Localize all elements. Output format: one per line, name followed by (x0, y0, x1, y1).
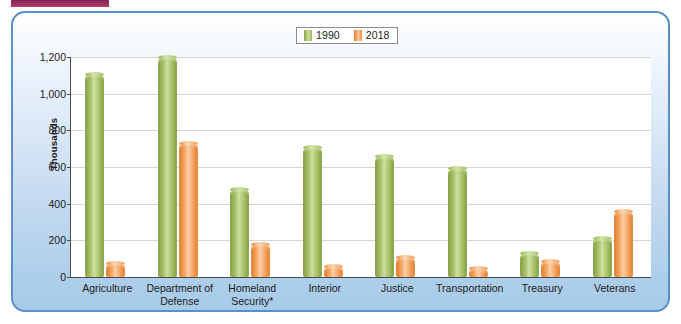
bar-group: Agriculture (71, 57, 144, 277)
bar-1990[interactable] (230, 189, 249, 277)
bar-2018[interactable] (179, 143, 198, 277)
bar-1990[interactable] (303, 147, 322, 277)
bar-1990[interactable] (85, 74, 104, 278)
legend-label-2018: 2018 (366, 30, 390, 41)
bar-cap (375, 154, 394, 159)
chart-legend: 1990 2018 (296, 27, 398, 44)
bar-cap (614, 209, 633, 214)
y-axis-tick-label: 200 (48, 234, 66, 246)
top-accent-rule (11, 0, 109, 7)
y-axis-tick-label: 600 (48, 161, 66, 173)
legend-item-1990: 1990 (304, 30, 340, 41)
green-swatch-icon (304, 30, 312, 41)
y-axis-tick-label: 1,000 (40, 88, 66, 100)
y-axis-tick-label: 800 (48, 124, 66, 136)
bar-group: Justice (361, 57, 434, 277)
bar-2018[interactable] (324, 266, 343, 277)
y-axis-tick-label: 400 (48, 198, 66, 210)
bar-group: Veterans (579, 57, 652, 277)
y-axis-tick-mark (67, 277, 71, 278)
bar-2018[interactable] (541, 261, 560, 277)
bar-2018[interactable] (614, 211, 633, 277)
legend-label-1990: 1990 (316, 30, 340, 41)
bar-cap (230, 187, 249, 192)
bar-cap (85, 72, 104, 77)
bar-1990[interactable] (593, 238, 612, 277)
chart-panel: 1990 2018 Thousands 02004006008001,0001,… (11, 11, 670, 312)
bar-cap (448, 166, 467, 171)
bar-1990[interactable] (448, 168, 467, 277)
bar-cap (303, 145, 322, 150)
bar-cap (324, 264, 343, 269)
bar-2018[interactable] (251, 244, 270, 277)
plot-area: 02004006008001,0001,200AgricultureDepart… (70, 57, 651, 278)
bar-2018[interactable] (396, 257, 415, 277)
y-axis-tick-label: 1,200 (40, 51, 66, 63)
orange-swatch-icon (354, 30, 362, 41)
bar-cap (251, 242, 270, 247)
plot-frame: 02004006008001,0001,200AgricultureDepart… (63, 46, 655, 299)
bar-cap (520, 251, 539, 256)
bar-group: Treasury (506, 57, 579, 277)
bar-1990[interactable] (375, 156, 394, 277)
bar-2018[interactable] (106, 263, 125, 277)
bar-cap (469, 266, 488, 271)
bar-cap (106, 261, 125, 266)
bar-cap (541, 259, 560, 264)
bar-cap (158, 55, 177, 60)
bar-group: HomelandSecurity* (216, 57, 289, 277)
x-axis-category-label: Veterans (572, 282, 658, 295)
bar-group: Department ofDefense (144, 57, 217, 277)
bar-group: Interior (289, 57, 362, 277)
bar-cap (396, 255, 415, 260)
bar-1990[interactable] (158, 57, 177, 277)
bar-group: Transportation (434, 57, 507, 277)
bar-cap (593, 236, 612, 241)
legend-item-2018: 2018 (354, 30, 390, 41)
bar-cap (179, 141, 198, 146)
bar-1990[interactable] (520, 253, 539, 277)
bar-2018[interactable] (469, 268, 488, 277)
